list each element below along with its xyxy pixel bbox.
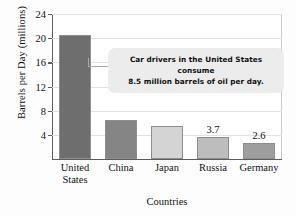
callout-leader-line bbox=[88, 66, 110, 67]
x-axis-title: Countries bbox=[52, 196, 282, 207]
x-tick-label: China bbox=[98, 162, 144, 174]
bar bbox=[243, 143, 275, 159]
y-tick-label: 20 bbox=[36, 33, 47, 44]
bar bbox=[59, 35, 91, 159]
x-axis-tick-labels: UnitedStatesChinaJapanRussiaGermany bbox=[52, 162, 282, 192]
y-tick-label: 24 bbox=[36, 9, 47, 20]
callout-box: Car drivers in the United States consume… bbox=[108, 48, 284, 93]
callout-line-2: 8.5 million barrels of oil per day. bbox=[113, 76, 279, 87]
x-tick-label-line: Japan bbox=[144, 162, 190, 174]
bar-slot bbox=[52, 14, 98, 159]
x-tick-label-line: Germany bbox=[236, 162, 282, 174]
x-tick-label: Germany bbox=[236, 162, 282, 174]
bar-value-label: 3.7 bbox=[206, 124, 219, 135]
bar bbox=[151, 126, 183, 159]
y-tick-label: 4 bbox=[41, 129, 46, 140]
y-tick-label: 12 bbox=[36, 81, 47, 92]
y-tick-label: 8 bbox=[41, 105, 46, 116]
bar bbox=[197, 137, 229, 159]
x-tick-label: Russia bbox=[190, 162, 236, 174]
x-tick-label: Japan bbox=[144, 162, 190, 174]
x-tick-label: UnitedStates bbox=[52, 162, 98, 185]
bar-chart: Barrels per Day (millions) 4812162024 3.… bbox=[0, 0, 296, 216]
bar-value-label: 2.6 bbox=[252, 130, 265, 141]
bar bbox=[105, 120, 137, 159]
callout-line-1: Car drivers in the United States consume bbox=[113, 54, 279, 76]
y-axis-title: Barrels per Day (millions) bbox=[16, 0, 27, 138]
y-tick-label: 16 bbox=[36, 57, 47, 68]
x-tick-label-line: States bbox=[52, 174, 98, 186]
x-tick-label-line: Russia bbox=[190, 162, 236, 174]
x-tick-label-line: United bbox=[52, 162, 98, 174]
x-tick-label-line: China bbox=[98, 162, 144, 174]
